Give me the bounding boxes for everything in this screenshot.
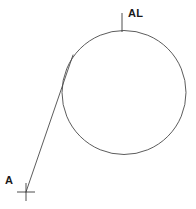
- tangent-line: [26, 55, 73, 192]
- label-al: AL: [128, 8, 143, 19]
- geometry-diagram: AL A: [0, 0, 196, 209]
- circle-shape: [62, 31, 186, 155]
- label-a: A: [5, 175, 13, 186]
- point-a-cross-marker: [17, 183, 35, 201]
- geometry-canvas: [0, 0, 196, 209]
